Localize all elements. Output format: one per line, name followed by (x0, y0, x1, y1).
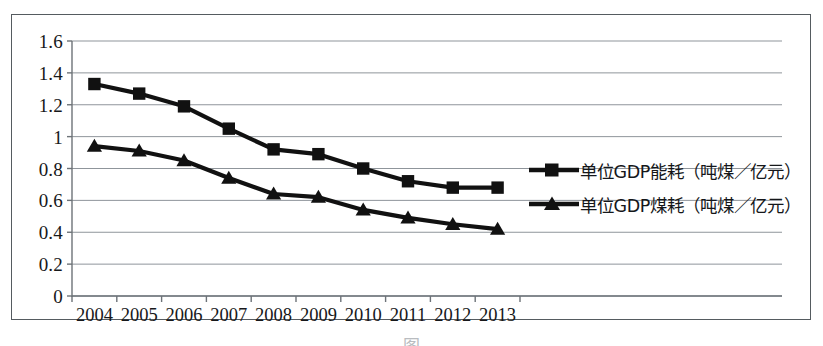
legend-item[interactable]: 单位GDP能耗（吨煤／亿元） (528, 155, 800, 185)
x-axis-tick-label: 2006 (162, 306, 207, 325)
square-marker-icon (528, 160, 580, 180)
x-axis-tick-label: 2013 (475, 306, 520, 325)
plot-area: 00.20.40.60.811.21.41.6 2004200520062007… (12, 15, 812, 321)
legend-item-label: 单位GDP煤耗（吨煤／亿元） (580, 192, 800, 217)
y-axis-tick-label: 1 (12, 128, 63, 147)
legend-item-label: 单位GDP能耗（吨煤／亿元） (580, 158, 800, 183)
y-axis-tick-label: 0 (12, 287, 63, 306)
x-axis-tick-label: 2010 (341, 306, 386, 325)
y-axis-tick-label: 0.4 (12, 223, 63, 242)
y-axis-tick-label: 0.6 (12, 191, 63, 210)
y-axis-tick-label: 1.2 (12, 96, 63, 115)
x-axis-tick-label: 2011 (386, 306, 431, 325)
x-axis-tick-label: 2008 (251, 306, 296, 325)
figure-caption: 图 (0, 332, 823, 346)
y-axis-tick-label: 0.2 (12, 255, 63, 274)
y-axis-tick-label: 1.4 (12, 64, 63, 83)
chart-frame: 00.20.40.60.811.21.41.6 2004200520062007… (11, 14, 811, 320)
x-axis-tick-label: 2007 (206, 306, 251, 325)
legend-item[interactable]: 单位GDP煤耗（吨煤／亿元） (528, 189, 800, 219)
chart-legend: 单位GDP能耗（吨煤／亿元） 单位GDP煤耗（吨煤／亿元） (528, 155, 800, 223)
triangle-marker-icon (528, 194, 580, 214)
x-axis-tick-label: 2005 (117, 306, 162, 325)
y-axis-tick-label: 1.6 (12, 32, 63, 51)
x-axis-tick-label: 2004 (72, 306, 117, 325)
y-axis-tick-label: 0.8 (12, 160, 63, 179)
x-axis-tick-label: 2012 (430, 306, 475, 325)
figure-root: 00.20.40.60.811.21.41.6 2004200520062007… (0, 0, 823, 346)
x-axis-tick-label: 2009 (296, 306, 341, 325)
